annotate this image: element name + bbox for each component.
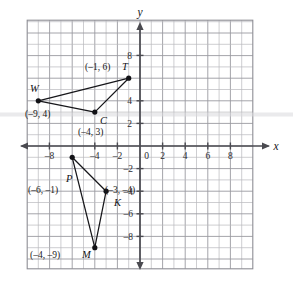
x-tick-label-4: 4 [183,151,188,161]
x-axis: x [20,140,279,152]
x-tick-label-2: 2 [160,151,165,161]
vertex-point-M [92,245,97,250]
coord-label-C: (–4, 3) [78,127,103,138]
x-tick-label-6: 6 [205,151,210,161]
x-tick-label-neg4: –4 [89,151,100,161]
y-axis-label: y [136,6,143,19]
vertex-point-T [126,76,131,81]
x-axis-arrow-right [262,142,270,149]
vertex-label-M: M [81,249,92,260]
y-tick-label-neg8: –8 [123,232,134,242]
x-tick-label-8: 8 [228,151,233,161]
y-tick-label-neg2: –2 [123,164,134,174]
vertex-point-C [92,110,97,115]
y-axis-arrow-up [136,22,143,30]
graph-canvas: x y –8 –4 –2 0 2 4 6 8 [0,0,293,289]
coord-label-P: (–6, –1) [28,185,58,196]
y-axis: y [136,6,143,270]
y-tick-label-4: 4 [127,96,132,106]
x-axis-label: x [272,140,279,152]
y-tick-label-neg6: –6 [123,209,134,219]
vertex-label-W: W [30,83,40,94]
vertex-point-P [70,155,75,160]
coord-label-K: (–3, –4) [105,185,135,196]
coord-label-M: (–4, –9) [30,250,60,261]
vertex-label-K: K [113,197,122,208]
coord-label-T: (–1, 6) [85,62,110,73]
coord-label-W: (–9, 4) [25,109,50,120]
y-tick-label-2: 2 [127,119,132,129]
x-axis-arrow-left [20,142,28,149]
x-tick-label-zero: 0 [144,151,149,161]
x-tick-label-neg2: –2 [112,151,123,161]
x-tick-label-neg8: –8 [44,151,55,161]
vertex-point-W [36,98,41,103]
y-tick-label-8: 8 [127,51,132,61]
vertex-label-C: C [100,115,108,126]
vertex-label-P: P [65,173,73,184]
coordinate-plane-figure: x y –8 –4 –2 0 2 4 6 8 [0,0,293,289]
vertex-label-T: T [122,61,129,72]
